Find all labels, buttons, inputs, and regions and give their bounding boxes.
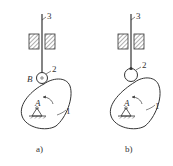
cam — [110, 78, 160, 129]
label-roller: 2 — [142, 60, 147, 70]
roller-pin — [41, 77, 43, 79]
roller — [125, 69, 138, 82]
ground — [118, 116, 135, 119]
guide-left — [29, 34, 39, 49]
rotation-arrow — [132, 97, 142, 104]
ground — [29, 116, 46, 119]
label-follower: 3 — [136, 11, 141, 21]
label-cam: 1 — [155, 101, 160, 111]
label-pivot: A — [123, 98, 130, 108]
guide-right — [45, 34, 55, 49]
roller-joint — [130, 67, 133, 70]
label-roller-center: B — [27, 74, 33, 84]
panel-a: 3 2 B A 1 a) — [21, 11, 71, 154]
caption-a: a) — [36, 144, 43, 154]
panel-b: 3 2 A 1 b) — [110, 11, 160, 154]
label-pivot: A — [34, 98, 41, 108]
label-roller: 2 — [52, 64, 57, 74]
cam — [21, 79, 71, 129]
label-follower: 3 — [47, 11, 52, 21]
cam-mechanism-diagram: 3 2 B A 1 a) 3 2 — [0, 0, 173, 166]
guide-right — [134, 34, 144, 49]
caption-b: b) — [125, 144, 133, 154]
label-cam: 1 — [66, 106, 71, 116]
rotation-arrow — [43, 97, 53, 104]
guide-left — [118, 34, 128, 49]
